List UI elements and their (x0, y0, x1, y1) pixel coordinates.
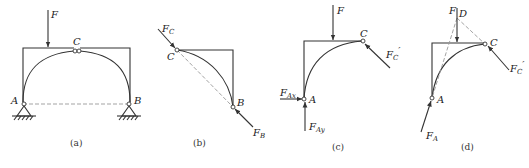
panel-a: F C A B (a) (10, 9, 141, 148)
label-point-b: B (133, 95, 141, 106)
label-force-fc-prime: FC′ (509, 59, 525, 76)
label-force-fa: FA (425, 130, 438, 143)
label-point-c: C (73, 36, 81, 47)
label-force-fc-prime: FC′ (385, 45, 401, 62)
label-force-fax: FAx (279, 87, 296, 100)
label-point-a: A (10, 95, 18, 106)
caption-b: (b) (193, 138, 206, 148)
label-point-c: C (167, 51, 175, 62)
label-point-c: C (360, 28, 368, 39)
label-force-fay: FAy (308, 121, 326, 134)
caption-c: (c) (332, 142, 344, 152)
label-force-fb: FB (252, 127, 265, 140)
panel-d: F D C A FC′ FA (d) (421, 5, 525, 152)
label-force-f: F (448, 5, 457, 16)
label-point-a: A (436, 94, 444, 105)
three-hinged-arch-diagram: F C A B (a) FC C B FB (b) (0, 0, 529, 168)
label-force-f: F (336, 5, 345, 16)
label-point-c: C (490, 37, 498, 48)
panel-b: FC C B FB (b) (158, 23, 265, 148)
label-force-f: F (50, 9, 59, 20)
caption-d: (d) (461, 142, 474, 152)
label-point-b: B (236, 97, 244, 108)
caption-a: (a) (70, 138, 82, 148)
label-point-d: D (458, 8, 467, 19)
label-point-a: A (308, 94, 316, 105)
panel-c: F C A FC′ FAx FAy (c) (279, 5, 401, 152)
